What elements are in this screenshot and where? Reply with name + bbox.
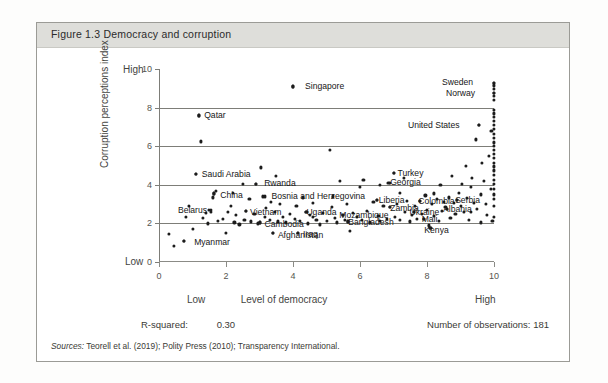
- data-point: [492, 127, 495, 130]
- data-point: [234, 213, 237, 216]
- data-point: [492, 145, 495, 148]
- y-tick-mark: [155, 223, 159, 224]
- data-point: [492, 88, 495, 91]
- r-squared-label: R-squared:: [141, 319, 188, 330]
- y-axis-line: [159, 69, 160, 262]
- data-point: [492, 178, 495, 181]
- data-point: [492, 152, 495, 155]
- data-point: [471, 176, 474, 179]
- x-axis-low-label: Low: [187, 294, 205, 305]
- point-label: Norway: [446, 88, 475, 98]
- observations-count: Number of observations: 181: [427, 319, 549, 330]
- data-point: [291, 85, 294, 88]
- data-point: [432, 192, 435, 195]
- x-axis-high-label: High: [475, 294, 496, 305]
- x-tick-label: 8: [424, 271, 429, 281]
- data-point: [492, 112, 495, 115]
- r-squared-value: 0.30: [217, 319, 236, 330]
- y-axis-high-label: High: [123, 64, 144, 75]
- point-label: Kenya: [424, 225, 448, 235]
- data-point: [392, 172, 395, 175]
- data-point: [492, 161, 495, 164]
- point-label: Bosnia and Herzegovina: [272, 191, 366, 201]
- gridline: [159, 185, 494, 186]
- data-point: [306, 222, 309, 225]
- data-point: [358, 185, 361, 188]
- data-point: [469, 185, 472, 188]
- data-point: [492, 204, 495, 207]
- data-point: [199, 140, 202, 143]
- data-point: [221, 217, 224, 220]
- data-point: [295, 204, 298, 207]
- data-point: [492, 123, 495, 126]
- data-point: [481, 161, 484, 164]
- figure-container: Figure 1.3 Democracy and corruption High…: [36, 22, 570, 362]
- data-point: [260, 166, 263, 169]
- data-point: [226, 210, 229, 213]
- point-label: Sweden: [442, 77, 473, 87]
- data-point: [394, 215, 397, 218]
- data-point: [492, 182, 495, 185]
- data-point: [362, 178, 365, 181]
- point-label: Vietnam: [250, 207, 281, 217]
- data-point: [379, 183, 382, 186]
- data-point: [348, 230, 351, 233]
- y-tick-mark: [155, 146, 159, 147]
- sources-prefix: Sources:: [51, 341, 84, 351]
- x-tick-mark: [494, 262, 495, 267]
- gridline: [159, 146, 494, 147]
- data-point: [184, 215, 187, 218]
- data-point: [482, 179, 485, 182]
- data-point: [191, 228, 194, 231]
- x-axis-title: Level of democracy: [241, 294, 328, 305]
- data-point: [245, 209, 248, 212]
- data-point: [439, 183, 442, 186]
- x-tick-label: 10: [489, 271, 499, 281]
- data-point: [492, 156, 495, 159]
- data-point: [243, 218, 246, 221]
- point-label: Rwanda: [264, 178, 296, 188]
- data-point: [492, 120, 495, 123]
- point-label: China: [220, 190, 242, 200]
- data-point: [415, 217, 418, 220]
- data-point: [449, 216, 452, 219]
- data-point: [487, 154, 490, 157]
- data-point: [278, 203, 281, 206]
- point-label: Myanmar: [194, 237, 230, 247]
- x-tick-label: 4: [290, 271, 295, 281]
- data-point: [271, 231, 274, 234]
- y-axis-title: Corruption perceptions index: [99, 40, 110, 168]
- point-label: Singapore: [305, 81, 344, 91]
- data-point: [172, 244, 175, 247]
- data-point: [206, 222, 209, 225]
- data-point: [201, 216, 204, 219]
- x-tick-label: 0: [156, 271, 161, 281]
- data-point: [492, 148, 495, 151]
- point-label: Albania: [443, 204, 472, 214]
- data-point: [492, 169, 495, 172]
- data-point: [467, 218, 470, 221]
- data-point: [492, 174, 495, 177]
- point-label: Cambodia: [265, 219, 304, 229]
- x-tick-label: 6: [357, 271, 362, 281]
- point-label: Qatar: [204, 110, 226, 120]
- data-point: [213, 192, 216, 195]
- data-point: [288, 212, 291, 215]
- point-label: Turkey: [398, 168, 424, 178]
- data-point: [198, 114, 201, 117]
- scatter-plot: 0246810 0246810 SingaporeSwedenNorwayUni…: [159, 69, 494, 262]
- data-point: [492, 132, 495, 135]
- data-point: [229, 204, 232, 207]
- figure-title: Figure 1.3 Democracy and corruption: [51, 28, 231, 40]
- point-label: Saudi Arabia: [202, 169, 251, 179]
- data-point: [492, 108, 495, 111]
- data-point: [451, 175, 454, 178]
- data-point: [183, 239, 186, 242]
- data-point: [476, 207, 479, 210]
- data-point: [474, 138, 477, 141]
- data-point: [492, 98, 495, 101]
- y-tick-mark: [155, 69, 159, 70]
- x-tick-mark: [226, 262, 227, 267]
- x-axis-line: [159, 261, 494, 262]
- data-point: [281, 215, 284, 218]
